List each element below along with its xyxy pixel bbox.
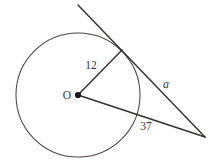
- center-label: O: [63, 89, 71, 101]
- radius-length-label: 12: [85, 59, 97, 71]
- radius-line: [78, 50, 122, 95]
- center-point-dot: [75, 92, 81, 98]
- diagram-canvas: O 12 a 37: [0, 0, 213, 165]
- tangent-length-label: a: [163, 77, 169, 91]
- geometry-diagram: O 12 a 37: [0, 0, 213, 165]
- tangent-line: [78, 5, 205, 137]
- secant-length-label: 37: [140, 120, 152, 132]
